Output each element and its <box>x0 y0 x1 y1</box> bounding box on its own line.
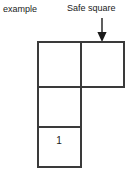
example-label: example <box>3 4 37 15</box>
grid-cell-r2c0 <box>38 127 81 167</box>
figure-container: example Safe square 1 <box>0 0 133 171</box>
safe-square-label: Safe square <box>67 3 116 14</box>
grid-diagram <box>34 38 129 169</box>
grid-cell-r1c0 <box>38 87 81 127</box>
grid-cell-r0c0 <box>38 42 81 87</box>
grid-cell-r0c1 <box>81 42 124 87</box>
grid-cell-value-1: 1 <box>55 136 63 146</box>
